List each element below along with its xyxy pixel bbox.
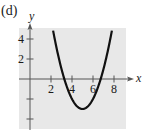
y-axis-label: y xyxy=(28,9,35,23)
panel-label: (d) xyxy=(1,3,17,19)
y-tick-label: 4 xyxy=(18,32,24,46)
parabola-chart: 246824 x y xyxy=(0,0,148,140)
y-tick-label: 2 xyxy=(18,52,24,66)
x-axis-label: x xyxy=(135,71,142,85)
x-tick-label: 2 xyxy=(48,82,54,96)
chart-figure: (d) 246824 x y xyxy=(0,0,148,140)
x-tick-label: 8 xyxy=(111,82,117,96)
